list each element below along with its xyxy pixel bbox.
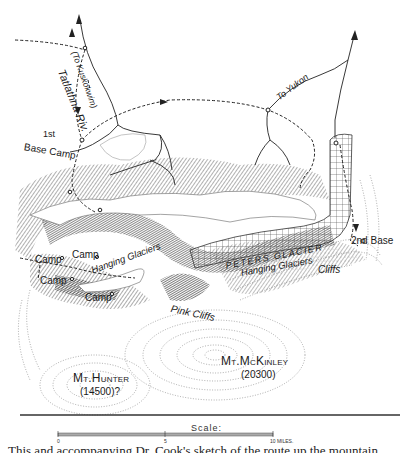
second-base-label: 2nd Base bbox=[351, 236, 393, 246]
camp-label-2: Camp bbox=[72, 250, 99, 260]
cliffs-label: Cliffs bbox=[318, 265, 340, 275]
scale-title: Scale: bbox=[0, 423, 413, 433]
camp-label-1: Camp bbox=[35, 255, 62, 265]
mt-hunter-elevation: (14500)? bbox=[80, 387, 120, 397]
mt-mckinley-elevation: (20300) bbox=[241, 370, 275, 380]
mt-mckinley-label: Mt.McKinley bbox=[221, 355, 288, 367]
first-base-sup-label: 1st bbox=[43, 130, 55, 139]
route-map bbox=[0, 0, 413, 453]
map-caption: This and accompanying Dr. Cook's sketch … bbox=[0, 442, 413, 453]
camp-label-3: Camp bbox=[40, 276, 67, 286]
camp-label-4: Camp bbox=[85, 293, 112, 303]
mt-hunter-label: Mt.Hunter bbox=[73, 372, 129, 384]
